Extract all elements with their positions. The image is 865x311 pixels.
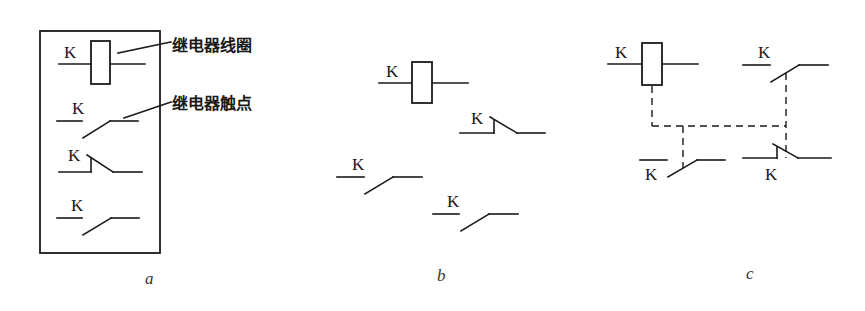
normally-open-contact: K: [337, 155, 422, 194]
normally-closed-contact: K: [743, 144, 831, 184]
contact-label: K: [352, 155, 365, 174]
coil-label: K: [615, 43, 628, 62]
contact-leader-line: [124, 102, 171, 118]
contact-label: K: [471, 109, 484, 128]
normally-open-contact: K: [433, 192, 518, 231]
mechanical-linkage: [652, 73, 786, 168]
contact-label: K: [765, 165, 778, 184]
panel-caption-c: c: [746, 264, 754, 283]
relay-coil-symbol: K: [379, 62, 468, 103]
contact-annotation: 继电器触点: [172, 94, 252, 113]
coil-label: K: [64, 43, 77, 62]
panel-b: K K K K b: [337, 62, 545, 285]
coil-leader-line: [118, 42, 171, 53]
panel-caption-a: a: [145, 269, 154, 288]
panel-c: K K K K c: [608, 43, 831, 283]
contact-label: K: [72, 99, 85, 118]
panel-a: K K K K 继电器线圈 继电器触点 a: [40, 31, 252, 288]
normally-open-contact: K: [57, 99, 138, 138]
panel-caption-b: b: [437, 266, 446, 285]
normally-closed-contact: K: [59, 146, 142, 172]
relay-coil-symbol: K: [608, 43, 698, 85]
contact-label: K: [71, 196, 84, 215]
coil-label: K: [386, 62, 399, 81]
relay-diagram: K K K K 继电器线圈 继电器触点 a: [0, 0, 865, 311]
relay-coil-symbol: K: [59, 41, 145, 84]
normally-closed-contact: K: [460, 109, 545, 133]
contact-label: K: [68, 146, 81, 165]
contact-label: K: [645, 165, 658, 184]
normally-open-contact: K: [57, 196, 139, 235]
contact-label: K: [447, 192, 460, 211]
coil-annotation: 继电器线圈: [172, 36, 252, 55]
contact-label: K: [758, 43, 771, 62]
